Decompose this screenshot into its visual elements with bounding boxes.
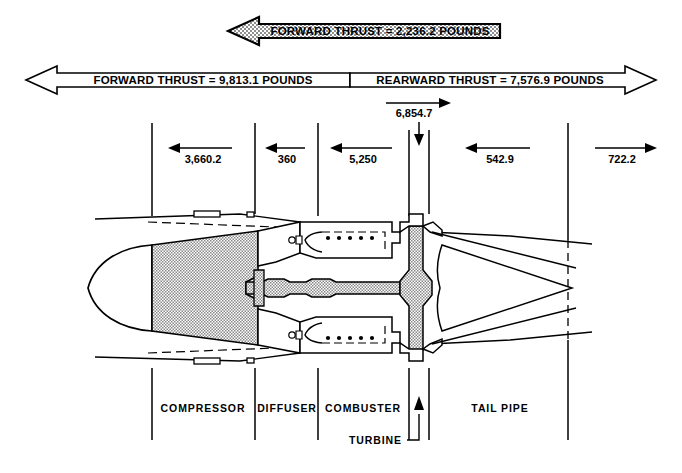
section-label-compressor: COMPRESSOR [161, 402, 246, 414]
net-forward-thrust-label: FORWARD THRUST = 2,236.2 POUNDS [270, 25, 489, 37]
fuel-nozzle-upper [289, 236, 302, 244]
fuel-nozzle-lower [289, 331, 302, 339]
station-value-exhaust: 722.2 [608, 153, 636, 165]
rotor-shaft [246, 279, 400, 297]
combustor-can-lower [300, 317, 400, 353]
diagram-canvas: FORWARD THRUST = 2,236.2 POUNDS FORWARD … [0, 0, 682, 473]
section-label-diffuser: DIFFUSER [257, 402, 317, 414]
rearward-thrust-label: REARWARD THRUST = 7,576.9 POUNDS [376, 74, 604, 86]
section-label-combuster: COMBUSTER [325, 402, 401, 414]
station-value-turbine: 6,854.7 [396, 107, 433, 119]
station-value-compressor: 3,660.2 [185, 153, 222, 165]
compressor-hub-collar [254, 270, 264, 306]
station-value-tailpipe: 542.9 [486, 153, 514, 165]
turbine-callout-label: TURBINE [349, 434, 402, 446]
station-value-diffuser: 360 [278, 153, 296, 165]
forward-thrust-label: FORWARD THRUST = 9,813.1 POUNDS [93, 74, 312, 86]
compressor-block [152, 231, 258, 345]
station-value-combuster: 5,250 [349, 153, 377, 165]
section-label-tailpipe: TAIL PIPE [471, 402, 528, 414]
